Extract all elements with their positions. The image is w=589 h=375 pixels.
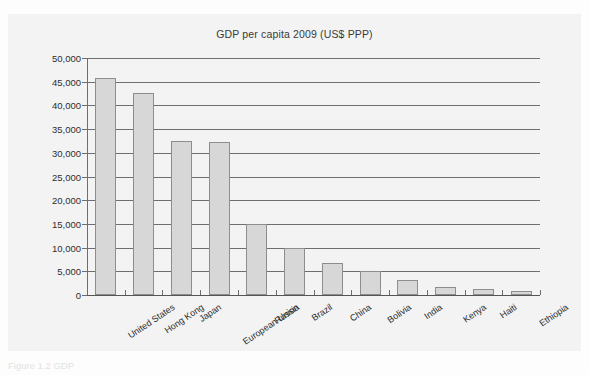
x-tick-mark — [314, 290, 315, 295]
x-tick-mark — [162, 290, 163, 295]
bar-slot — [87, 58, 125, 295]
bar-slot — [200, 58, 238, 295]
x-tick-mark — [87, 290, 88, 295]
x-tick-mark — [200, 290, 201, 295]
y-tick-label: 35,000 — [52, 124, 81, 135]
x-tick-mark — [276, 290, 277, 295]
x-axis-label: Kenya — [461, 302, 488, 325]
x-tick-mark — [238, 290, 239, 295]
bar-slot — [238, 58, 276, 295]
bar-series — [87, 58, 540, 295]
y-tick-label: 15,000 — [52, 218, 81, 229]
x-axis-label: Bolivia — [386, 302, 414, 325]
y-tick-label: 10,000 — [52, 242, 81, 253]
bar-slot — [276, 58, 314, 295]
x-tick-mark — [465, 290, 466, 295]
x-tick-mark — [125, 290, 126, 295]
bar-slot — [351, 58, 389, 295]
bar[interactable] — [435, 287, 456, 295]
y-tick-label: 0 — [76, 290, 81, 301]
page-header-cut-text — [12, 0, 272, 10]
bar[interactable] — [473, 289, 494, 295]
bar[interactable] — [246, 224, 267, 295]
bar[interactable] — [322, 263, 343, 295]
y-tick-label: 5,000 — [57, 266, 81, 277]
bar[interactable] — [397, 280, 418, 295]
y-tick-label: 45,000 — [52, 76, 81, 87]
y-tick-label: 50,000 — [52, 53, 81, 64]
x-tick-mark — [389, 290, 390, 295]
gridline — [87, 295, 540, 296]
bar-slot — [125, 58, 163, 295]
figure-panel: GDP per capita 2009 (US$ PPP) 50,00045,0… — [8, 14, 581, 351]
y-tick-label: 25,000 — [52, 171, 81, 182]
y-tick-label: 20,000 — [52, 195, 81, 206]
y-tick-label: 30,000 — [52, 147, 81, 158]
bar-slot — [427, 58, 465, 295]
bar[interactable] — [209, 142, 230, 295]
y-tick-mark — [82, 295, 87, 296]
bar[interactable] — [133, 93, 154, 295]
scanned-page: GDP per capita 2009 (US$ PPP) 50,00045,0… — [0, 0, 589, 375]
bar-slot — [162, 58, 200, 295]
x-tick-mark — [427, 290, 428, 295]
bar-slot — [314, 58, 352, 295]
bar-slot — [502, 58, 540, 295]
x-tick-mark — [540, 290, 541, 295]
x-tick-mark — [351, 290, 352, 295]
bar[interactable] — [171, 141, 192, 295]
x-axis-label: Ethiopia — [538, 302, 571, 328]
bar[interactable] — [95, 78, 116, 295]
bar[interactable] — [284, 248, 305, 295]
chart-title: GDP per capita 2009 (US$ PPP) — [8, 28, 581, 40]
plot-area: 50,00045,00040,00035,00030,00025,00020,0… — [87, 58, 540, 295]
x-axis-label: Haiti — [498, 302, 519, 320]
figure-caption: Figure 1.2 GDP — [8, 360, 74, 371]
x-tick-mark — [502, 290, 503, 295]
y-tick-label: 40,000 — [52, 100, 81, 111]
bar[interactable] — [360, 271, 381, 295]
bar-slot — [389, 58, 427, 295]
x-axis-label: Brazil — [310, 302, 334, 323]
bar-slot — [465, 58, 503, 295]
x-axis-label: China — [348, 302, 373, 323]
x-axis-label: Russia — [273, 302, 301, 326]
bar[interactable] — [511, 291, 532, 295]
x-axis-label: India — [423, 302, 445, 321]
